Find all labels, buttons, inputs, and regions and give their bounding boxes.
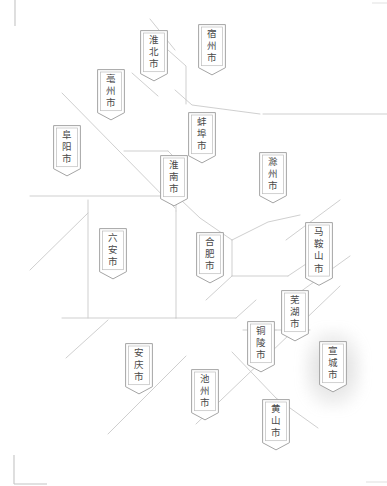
city-label-bozhou: 亳 州 市 [97,69,125,113]
city-marker-bengbu[interactable]: 蚌 埠 市 [188,112,216,164]
city-label-huaibei: 淮 北 市 [140,30,168,74]
city-label-maanshan: 马 鞍 山 市 [305,222,333,278]
city-marker-layer: 淮 北 市宿 州 市亳 州 市蚌 埠 市阜 阳 市滁 州 市淮 南 市马 鞍 山… [0,0,387,486]
anhui-province-map[interactable]: 淮 北 市宿 州 市亳 州 市蚌 埠 市阜 阳 市滁 州 市淮 南 市马 鞍 山… [0,0,387,486]
city-marker-hefei[interactable]: 合 肥 市 [196,232,224,284]
city-marker-xuancheng[interactable]: 宣 城 市 [319,341,347,393]
city-label-fuyang: 阜 阳 市 [53,125,81,169]
city-marker-huaibei[interactable]: 淮 北 市 [140,30,168,82]
city-marker-fuyang[interactable]: 阜 阳 市 [53,125,81,177]
city-marker-maanshan[interactable]: 马 鞍 山 市 [305,222,333,286]
city-label-huainan: 淮 南 市 [160,155,188,199]
city-marker-huangshan[interactable]: 黄 山 市 [262,399,290,451]
city-label-huangshan: 黄 山 市 [262,399,290,443]
city-label-hefei: 合 肥 市 [196,232,224,276]
city-label-xuancheng: 宣 城 市 [319,341,347,385]
city-label-wuhu: 芜 湖 市 [281,290,309,334]
city-label-anqing: 安 庆 市 [125,343,153,387]
city-marker-huainan[interactable]: 淮 南 市 [160,155,188,207]
city-marker-chuzhou[interactable]: 滁 州 市 [259,152,287,204]
city-marker-luan[interactable]: 六 安 市 [99,228,127,280]
city-marker-chizhou[interactable]: 池 州 市 [191,369,219,421]
city-marker-bozhou[interactable]: 亳 州 市 [97,69,125,121]
city-label-chizhou: 池 州 市 [191,369,219,413]
city-label-tongling: 铜 陵 市 [247,321,275,365]
city-label-suzhou: 宿 州 市 [198,24,226,68]
city-label-bengbu: 蚌 埠 市 [188,112,216,156]
city-label-chuzhou: 滁 州 市 [259,152,287,196]
city-marker-tongling[interactable]: 铜 陵 市 [247,321,275,373]
city-label-luan: 六 安 市 [99,228,127,272]
city-marker-suzhou[interactable]: 宿 州 市 [198,24,226,76]
city-marker-anqing[interactable]: 安 庆 市 [125,343,153,395]
